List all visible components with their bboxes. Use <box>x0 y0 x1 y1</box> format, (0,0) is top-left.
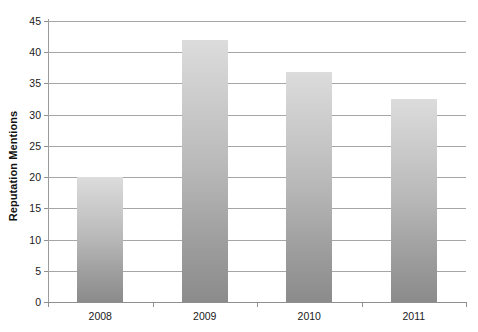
y-tick-label: 20 <box>29 171 41 183</box>
x-tick-mark <box>362 302 363 307</box>
bar-2011 <box>391 99 437 302</box>
x-tick-label-2010: 2010 <box>298 310 321 322</box>
x-tick-mark <box>48 302 49 307</box>
bars-layer <box>48 21 466 302</box>
x-tick-label-2011: 2011 <box>402 310 425 322</box>
x-tick-label-2008: 2008 <box>89 310 112 322</box>
bar-2010 <box>286 72 332 302</box>
y-tick-label: 30 <box>29 109 41 121</box>
y-tick-label: 5 <box>35 265 41 277</box>
y-tick-label: 0 <box>35 296 41 308</box>
y-tick-label: 35 <box>29 77 41 89</box>
bar-chart: Reputation Mentions 051015202530354045 2… <box>0 0 478 332</box>
y-tick-label: 10 <box>29 234 41 246</box>
x-tick-label-2009: 2009 <box>193 310 216 322</box>
plot-area: 051015202530354045 <box>48 21 466 302</box>
y-tick-label: 25 <box>29 140 41 152</box>
x-tick-mark <box>466 302 467 307</box>
y-tick-label: 40 <box>29 46 41 58</box>
bar-2009 <box>182 40 228 302</box>
y-tick-label: 15 <box>29 202 41 214</box>
x-tick-mark <box>153 302 154 307</box>
y-axis-title: Reputation Mentions <box>0 0 26 332</box>
bar-2008 <box>77 177 123 302</box>
y-tick-label: 45 <box>29 15 41 27</box>
x-tick-mark <box>257 302 258 307</box>
